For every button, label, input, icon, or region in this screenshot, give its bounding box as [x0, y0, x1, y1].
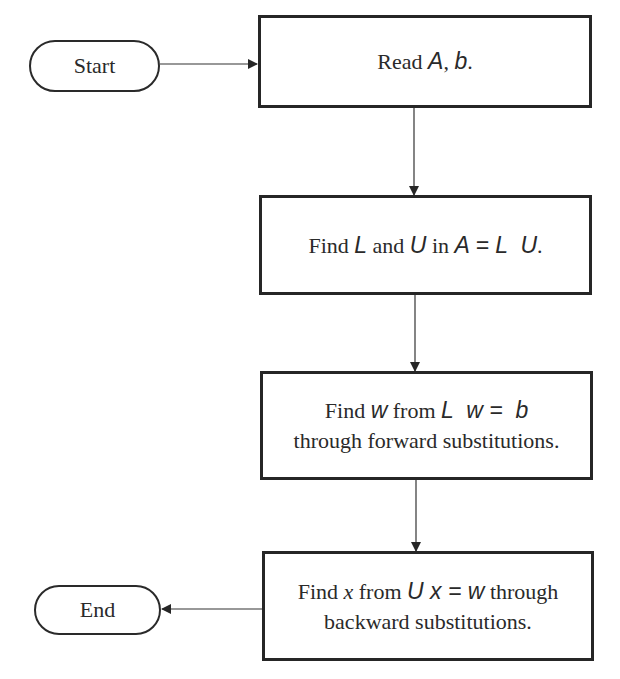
end-terminal: End: [34, 585, 161, 635]
backward-substitution-box: Find x from U x = w through backward sub…: [262, 551, 594, 661]
lu-decomposition-box: Find L and U in A = L U.: [259, 195, 592, 295]
lu-equation: A = L U: [455, 232, 537, 258]
read-input-text: Read A, b.: [377, 46, 472, 77]
forward-substitution-line1: Find w from L w = b: [325, 395, 528, 426]
backward-equation: U x = w: [407, 578, 484, 604]
backward-substitution-line1: Find x from U x = w through: [298, 576, 559, 607]
backward-substitution-line2: backward substitutions.: [324, 607, 532, 637]
lu-decomposition-text: Find L and U in A = L U.: [308, 230, 542, 261]
read-input-box: Read A, b.: [258, 15, 592, 108]
matrix-a-symbol: A: [428, 48, 443, 74]
end-label: End: [80, 597, 115, 623]
flowchart: Start Read A, b. Find L and U in A = L U…: [0, 0, 620, 679]
start-label: Start: [74, 53, 116, 79]
forward-substitution-box: Find w from L w = b through forward subs…: [260, 371, 593, 480]
forward-equation: L w = b: [441, 397, 528, 423]
vector-b-symbol: b: [454, 48, 467, 74]
start-terminal: Start: [29, 40, 160, 92]
forward-substitution-line2: through forward substitutions.: [294, 426, 560, 456]
